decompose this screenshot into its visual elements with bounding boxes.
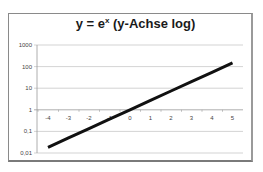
x-tick-label: 0 [128, 115, 132, 121]
x-tick-label: -2 [86, 115, 92, 121]
x-tick-label: -3 [66, 115, 72, 121]
y-tick-label: 0,01 [20, 150, 32, 156]
y-tick-label: 1 [29, 107, 33, 113]
x-tick-label: 2 [169, 115, 173, 121]
y-tick-label: 0,1 [24, 128, 33, 134]
y-axis-tick-labels: 0,010,11101001000 [19, 42, 33, 156]
y-tick-label: 1000 [19, 42, 33, 48]
x-tick-label: 4 [210, 115, 214, 121]
data-line-exp [48, 63, 233, 147]
plot-area: 0,010,11101001000 -4-3-2-1012345 [0, 0, 263, 172]
x-tick-label: -4 [45, 115, 51, 121]
x-tick-label: 1 [149, 115, 153, 121]
y-tick-label: 100 [22, 64, 33, 70]
x-axis-tick-labels: -4-3-2-1012345 [45, 115, 235, 121]
x-tick-label: 5 [231, 115, 235, 121]
x-tick-label: 3 [190, 115, 194, 121]
y-tick-label: 10 [25, 85, 32, 91]
gridlines [34, 45, 243, 153]
